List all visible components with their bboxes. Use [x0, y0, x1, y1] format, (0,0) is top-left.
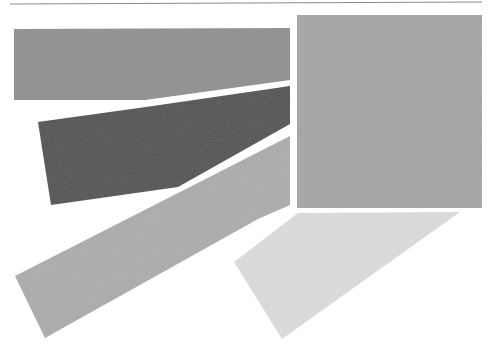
shape-group: [14, 15, 482, 339]
figure-svg: [0, 0, 492, 349]
shape-top-left-band: [14, 28, 290, 100]
shape-square: [297, 15, 482, 208]
shape-bottom-light: [234, 212, 460, 339]
figure-canvas: [0, 0, 492, 349]
top-rule: [10, 2, 482, 4]
